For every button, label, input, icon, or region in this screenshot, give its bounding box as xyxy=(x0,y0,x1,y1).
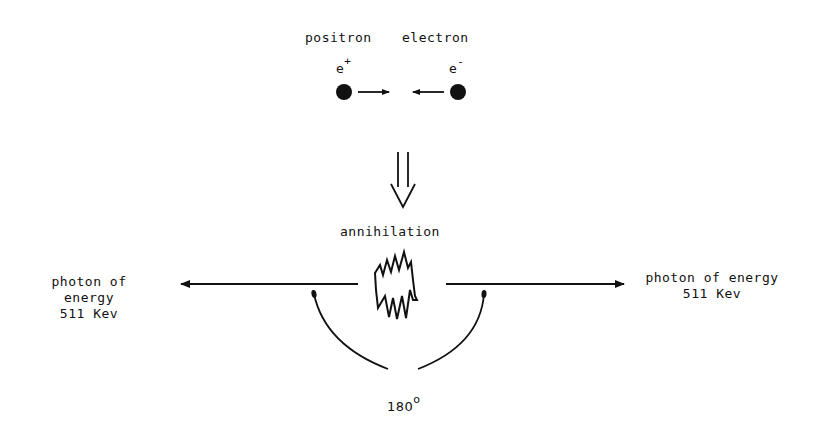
left-photon-label: photon of energy 511 Kev xyxy=(34,274,144,322)
right-photon-line2: 511 Kev xyxy=(637,286,787,302)
right-angle-arc xyxy=(418,294,484,369)
electron-charge: - xyxy=(457,55,464,68)
electron-dot xyxy=(450,84,466,100)
right-photon-label: photon of energy 511 Kev xyxy=(637,270,787,302)
diagram-canvas xyxy=(0,0,832,436)
double-down-arrow-icon xyxy=(391,152,415,207)
positron-dot xyxy=(336,84,352,100)
positron-label: positron xyxy=(305,30,372,45)
annihilation-burst-icon xyxy=(375,252,417,319)
angle-value: 180 xyxy=(387,399,413,414)
electron-label: electron xyxy=(402,30,469,45)
right-photon-line1: photon of energy xyxy=(637,270,787,286)
electron-symbol: e- xyxy=(449,58,464,76)
degree-symbol: o xyxy=(413,393,420,406)
left-photon-line3: 511 Kev xyxy=(34,306,144,322)
positron-charge: + xyxy=(344,55,351,68)
left-photon-line1: photon of xyxy=(34,274,144,290)
annihilation-label: annihilation xyxy=(340,224,440,239)
angle-label: 180o xyxy=(387,396,421,414)
left-photon-line2: energy xyxy=(34,290,144,306)
positron-symbol: e+ xyxy=(336,58,351,76)
